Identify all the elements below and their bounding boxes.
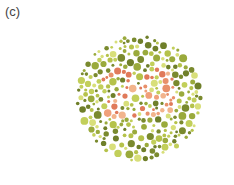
background-dot xyxy=(188,131,191,134)
background-dot xyxy=(84,88,87,91)
background-dot xyxy=(158,80,162,84)
background-dot xyxy=(150,148,156,154)
background-dot xyxy=(175,53,179,57)
background-dot xyxy=(155,75,159,79)
figure-dot xyxy=(163,78,169,84)
background-dot xyxy=(109,143,116,150)
background-dot xyxy=(95,100,98,103)
background-dot xyxy=(126,39,130,43)
background-dot xyxy=(195,82,202,89)
background-dot xyxy=(169,143,173,147)
figure-dot xyxy=(171,86,174,89)
background-dot xyxy=(141,124,147,130)
background-dot xyxy=(143,68,147,72)
background-dot xyxy=(156,129,160,133)
background-dot xyxy=(169,56,175,62)
background-dot xyxy=(107,95,110,98)
background-dot xyxy=(121,119,124,122)
figure-dot xyxy=(166,72,170,76)
background-dot xyxy=(117,126,120,129)
background-dot xyxy=(178,87,181,90)
background-dot xyxy=(173,115,177,119)
background-dot xyxy=(174,109,178,113)
background-dot xyxy=(130,119,133,122)
background-dot xyxy=(149,51,154,56)
background-dot xyxy=(143,156,148,161)
figure-dot xyxy=(143,84,147,88)
figure-dot xyxy=(160,93,166,99)
background-dot xyxy=(110,51,117,58)
background-dot xyxy=(172,72,179,79)
background-dot xyxy=(100,55,103,58)
background-dot xyxy=(185,101,188,104)
background-dot xyxy=(145,36,148,39)
background-dot xyxy=(114,150,121,157)
figure-dot xyxy=(159,71,165,77)
background-dot xyxy=(127,59,134,66)
background-dot xyxy=(130,159,133,162)
background-dot xyxy=(166,114,171,119)
background-dot xyxy=(164,129,167,132)
background-dot xyxy=(178,105,182,109)
background-dot xyxy=(179,91,185,97)
background-dot xyxy=(152,124,155,127)
background-dot xyxy=(116,77,120,81)
background-dot xyxy=(173,80,179,86)
figure-dot xyxy=(170,77,173,80)
figure-dot xyxy=(169,99,172,102)
background-dot xyxy=(119,40,122,43)
figure-dot xyxy=(107,100,110,103)
background-dot xyxy=(134,154,141,161)
background-dot xyxy=(99,120,102,123)
figure-dot xyxy=(119,112,126,119)
figure-dot xyxy=(115,111,119,115)
background-dot xyxy=(120,77,125,82)
background-dot xyxy=(133,72,136,75)
background-dot xyxy=(95,139,98,142)
background-dot xyxy=(193,124,196,127)
background-dot xyxy=(195,94,198,97)
background-dot xyxy=(143,50,149,56)
background-dot xyxy=(153,39,156,42)
background-dot xyxy=(155,87,158,90)
background-dot xyxy=(151,140,156,145)
background-dot xyxy=(174,121,177,124)
background-dot xyxy=(138,112,142,116)
background-dot xyxy=(109,78,116,85)
background-dot xyxy=(123,133,127,137)
background-dot xyxy=(110,121,117,128)
background-dot xyxy=(190,104,195,109)
background-dot xyxy=(158,51,161,54)
figure-dot xyxy=(167,107,173,113)
background-dot xyxy=(133,63,141,71)
background-dot xyxy=(153,145,157,149)
background-dot xyxy=(102,89,106,93)
background-dot xyxy=(86,105,91,110)
figure-dot xyxy=(154,95,159,100)
background-dot xyxy=(101,103,107,109)
figure-dot xyxy=(166,93,169,96)
background-dot xyxy=(158,145,162,149)
background-dot xyxy=(174,135,178,139)
background-dot xyxy=(105,121,108,124)
background-dot xyxy=(153,55,160,62)
background-dot xyxy=(81,117,89,125)
background-dot xyxy=(89,75,93,79)
background-dot xyxy=(139,102,142,105)
background-dot xyxy=(138,135,144,141)
background-dot xyxy=(149,67,154,72)
background-dot xyxy=(166,59,169,62)
figure-dot xyxy=(126,79,130,83)
background-dot xyxy=(166,65,171,70)
background-dot xyxy=(196,111,199,114)
background-dot xyxy=(113,136,119,142)
background-dot xyxy=(106,68,111,73)
background-dot xyxy=(145,143,149,147)
background-dot xyxy=(95,125,99,129)
background-dot xyxy=(137,82,140,85)
figure-dot xyxy=(144,90,147,93)
background-dot xyxy=(154,152,159,157)
background-dot xyxy=(138,118,141,121)
background-dot xyxy=(89,119,96,126)
background-dot xyxy=(89,115,93,119)
